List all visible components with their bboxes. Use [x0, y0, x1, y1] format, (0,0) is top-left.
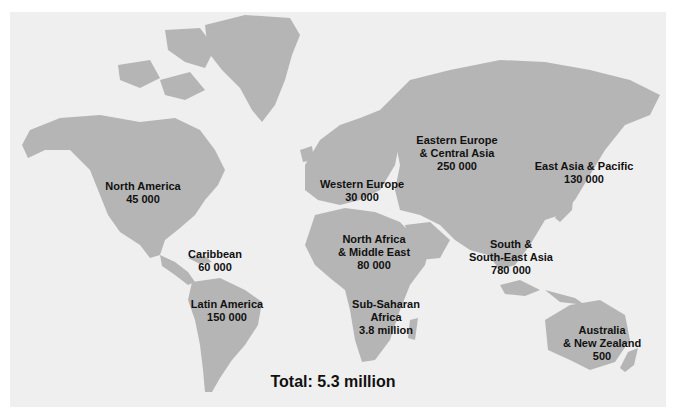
region-value: 500: [563, 350, 641, 363]
region-name-cont: & Middle East: [338, 246, 410, 259]
region-name: North America: [105, 180, 180, 193]
region-name: South &: [469, 238, 553, 251]
region-label-eastern-europe-central-asia: Eastern Europe & Central Asia 250 000: [416, 134, 497, 173]
region-name-cont: & Central Asia: [416, 147, 497, 160]
region-label-north-africa-middle-east: North Africa & Middle East 80 000: [338, 233, 410, 272]
region-name-cont: Africa: [352, 311, 420, 324]
region-label-western-europe: Western Europe 30 000: [320, 178, 404, 204]
region-label-latin-america: Latin America 150 000: [191, 298, 263, 324]
region-value: 3.8 million: [352, 324, 420, 337]
region-name: Caribbean: [188, 248, 242, 261]
region-value: 130 000: [535, 173, 634, 186]
region-name: Eastern Europe: [416, 134, 497, 147]
region-value: 250 000: [416, 160, 497, 173]
region-name: North Africa: [338, 233, 410, 246]
region-name: Western Europe: [320, 178, 404, 191]
region-label-east-asia-pacific: East Asia & Pacific 130 000: [535, 160, 634, 186]
region-value: 45 000: [105, 193, 180, 206]
region-name: Sub-Saharan: [352, 298, 420, 311]
region-value: 80 000: [338, 259, 410, 272]
region-value: 150 000: [191, 311, 263, 324]
region-name: Australia: [563, 324, 641, 337]
region-name: East Asia & Pacific: [535, 160, 634, 173]
region-label-north-america: North America 45 000: [105, 180, 180, 206]
region-value: 60 000: [188, 261, 242, 274]
region-name-cont: South-East Asia: [469, 251, 553, 264]
region-label-sub-saharan-africa: Sub-Saharan Africa 3.8 million: [352, 298, 420, 337]
region-value: 30 000: [320, 191, 404, 204]
region-name: Latin America: [191, 298, 263, 311]
region-name-cont: & New Zealand: [563, 337, 641, 350]
total-label: Total: 5.3 million: [270, 373, 395, 391]
region-label-australia-new-zealand: Australia & New Zealand 500: [563, 324, 641, 363]
region-value: 780 000: [469, 264, 553, 277]
region-label-caribbean: Caribbean 60 000: [188, 248, 242, 274]
region-label-south-southeast-asia: South & South-East Asia 780 000: [469, 238, 553, 277]
